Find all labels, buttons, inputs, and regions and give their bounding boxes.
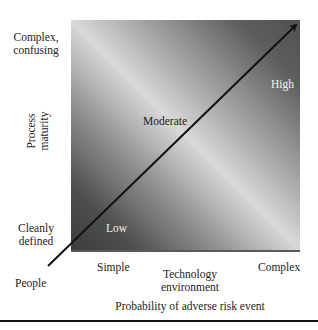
- bottom-rule-divider: [0, 320, 318, 322]
- y-axis-title: Process maturity: [25, 103, 55, 159]
- y-axis-title-line1: Process: [25, 103, 38, 159]
- y-axis-title-line2: maturity: [38, 103, 51, 159]
- zone-label-moderate: Moderate: [143, 115, 187, 128]
- x-axis-title-line2: environment: [140, 281, 240, 294]
- x-axis-title: Technology environment: [140, 268, 240, 294]
- y-axis-bottom-label-line1: Cleanly: [6, 222, 66, 235]
- x-axis-title-line1: Technology: [140, 268, 240, 281]
- zone-label-high: High: [271, 78, 294, 91]
- y-axis-top-label-line1: Complex,: [4, 31, 68, 44]
- x-axis-left-label: Simple: [97, 261, 130, 274]
- risk-gradient-square: [71, 20, 300, 252]
- x-axis-right-label: Complex: [258, 261, 300, 274]
- y-axis-top-label-line2: confusing: [4, 44, 68, 57]
- y-axis-top-label: Complex, confusing: [4, 31, 68, 57]
- zone-label-low: Low: [106, 222, 127, 235]
- y-axis-bottom-label: Cleanly defined: [6, 222, 66, 248]
- y-axis-bottom-label-line2: defined: [6, 235, 66, 248]
- arrow-caption: Probability of adverse risk event: [90, 300, 290, 313]
- origin-label: People: [15, 277, 46, 290]
